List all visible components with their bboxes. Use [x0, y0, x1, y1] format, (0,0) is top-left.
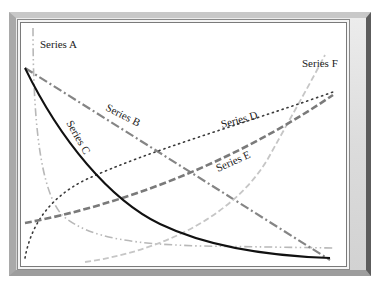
chart-svg: Series A Series B Series C Series D Seri…	[0, 0, 381, 286]
series-f-label: Series F	[302, 57, 338, 69]
series-b-label: Series B	[104, 101, 142, 128]
series-c-label: Series C	[64, 118, 93, 156]
series-a-label: Series A	[40, 38, 77, 50]
series-d-label: Series D	[219, 109, 258, 130]
series-f-line	[85, 55, 325, 262]
series-e-line	[25, 95, 333, 223]
